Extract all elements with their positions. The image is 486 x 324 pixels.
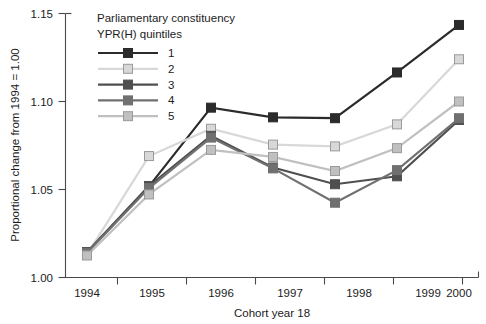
series-group: [83, 115, 464, 256]
legend-label: 3: [168, 79, 174, 91]
data-point-marker: [145, 190, 154, 199]
data-point-marker: [455, 114, 464, 123]
legend-entry[interactable]: 2: [98, 63, 174, 75]
data-point-marker: [83, 251, 92, 260]
legend-entries: 12345: [98, 47, 175, 122]
data-point-marker: [393, 120, 402, 129]
y-axis-title: Proportional change from 1994 = 1.00: [9, 48, 21, 241]
data-point-marker: [393, 166, 402, 175]
y-tick-label: 1.15: [31, 8, 53, 20]
line-chart: 1.15 1.10 1.05 1.00 Proportional change …: [0, 0, 486, 324]
x-tick-label: 2000: [446, 287, 472, 299]
data-point-marker: [145, 152, 154, 161]
data-point-marker: [455, 55, 464, 64]
x-tick-label: 1995: [139, 287, 165, 299]
legend-swatch-marker: [124, 64, 133, 73]
data-point-marker: [269, 152, 278, 161]
series-group: [83, 20, 464, 257]
data-point-marker: [455, 97, 464, 106]
series-line: [87, 118, 459, 253]
legend-title-line-2: YPR(H) quintiles: [97, 28, 182, 40]
data-point-marker: [393, 68, 402, 77]
data-point-marker: [207, 103, 216, 112]
x-tick-label: 1998: [346, 287, 372, 299]
legend-entry[interactable]: 5: [98, 110, 174, 122]
data-point-marker: [269, 113, 278, 122]
legend-swatch-marker: [124, 112, 133, 121]
data-point-marker: [331, 142, 340, 151]
chart-page: 1.15 1.10 1.05 1.00 Proportional change …: [0, 0, 486, 324]
data-point-marker: [207, 145, 216, 154]
series-layer: [83, 20, 464, 260]
legend-label: 5: [168, 110, 174, 122]
x-tick-label: 1994: [74, 287, 100, 299]
legend-entry[interactable]: 1: [98, 47, 174, 59]
data-point-marker: [331, 167, 340, 176]
legend-swatch-marker: [124, 49, 133, 58]
legend-label: 1: [168, 47, 174, 59]
data-point-marker: [269, 164, 278, 173]
data-point-marker: [331, 198, 340, 207]
data-point-marker: [331, 180, 340, 189]
series-line: [87, 102, 459, 256]
legend-title-line-1: Parliamentary constituency: [97, 12, 235, 24]
x-axis-title: Cohort year 18: [234, 307, 310, 319]
x-tick-label: 1997: [277, 287, 303, 299]
data-point-marker: [269, 140, 278, 149]
legend-entry[interactable]: 4: [98, 94, 175, 106]
data-point-marker: [455, 20, 464, 29]
y-tick-label: 1.00: [31, 272, 53, 284]
legend-swatch-marker: [124, 80, 133, 89]
legend-entry[interactable]: 3: [98, 79, 174, 91]
data-point-marker: [331, 114, 340, 123]
x-tick-label: 1999: [415, 287, 441, 299]
legend-label: 4: [168, 94, 175, 106]
data-point-marker: [207, 133, 216, 142]
x-tick-label: 1996: [208, 287, 234, 299]
legend-swatch-marker: [124, 96, 133, 105]
y-tick-label: 1.05: [31, 184, 53, 196]
series-line: [87, 25, 459, 253]
y-tick-label: 1.10: [31, 96, 53, 108]
series-group: [83, 114, 464, 258]
y-tick-labels: 1.15 1.10 1.05 1.00: [31, 8, 53, 284]
legend-label: 2: [168, 63, 174, 75]
x-tick-labels: 1994 1995 1996 1997 1998 1999 2000: [74, 287, 472, 299]
data-point-marker: [393, 144, 402, 153]
